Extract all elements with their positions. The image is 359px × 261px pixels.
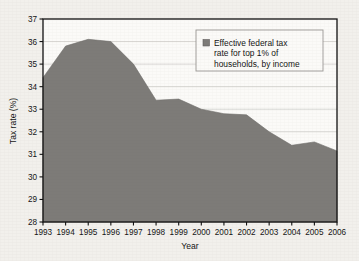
x-tick-label: 2005 [305, 228, 324, 237]
x-tick-label: 2002 [237, 228, 256, 237]
y-tick-label: 29 [28, 195, 38, 204]
legend-label-line-3: households, by income [214, 59, 300, 69]
legend-swatch-icon [203, 40, 210, 47]
y-tick-label: 35 [28, 60, 38, 69]
x-tick-label: 1997 [124, 228, 143, 237]
x-tick-label: 1998 [147, 228, 166, 237]
x-axis-title: Year [181, 241, 199, 251]
area-chart: 28293031323334353637 1993199419951996199… [0, 0, 359, 261]
y-axis-ticks: 28293031323334353637 [28, 15, 43, 227]
x-tick-label: 1996 [102, 228, 121, 237]
y-tick-label: 32 [28, 128, 38, 137]
x-axis-ticks: 1993199419951996199719981999200020012002… [34, 222, 347, 237]
x-tick-label: 2004 [283, 228, 302, 237]
chart-container: 28293031323334353637 1993199419951996199… [0, 0, 359, 261]
legend-label-line-2: rate for top 1% of [214, 48, 279, 58]
x-tick-label: 1993 [34, 228, 53, 237]
x-tick-label: 1995 [79, 228, 98, 237]
y-tick-label: 34 [28, 83, 38, 92]
y-tick-label: 28 [28, 218, 38, 227]
y-tick-label: 36 [28, 38, 38, 47]
y-tick-label: 30 [28, 173, 38, 182]
x-tick-label: 2000 [192, 228, 211, 237]
y-tick-label: 33 [28, 105, 38, 114]
x-tick-label: 1999 [170, 228, 189, 237]
y-tick-label: 37 [28, 15, 38, 24]
x-tick-label: 2006 [328, 228, 347, 237]
legend-label-line-1: Effective federal tax [214, 38, 288, 48]
y-axis-title: Tax rate (%) [8, 98, 18, 144]
legend: Effective federal tax rate for top 1% of… [196, 30, 323, 71]
x-tick-label: 2001 [215, 228, 234, 237]
x-tick-label: 2003 [260, 228, 279, 237]
x-tick-label: 1994 [57, 228, 76, 237]
y-tick-label: 31 [28, 150, 38, 159]
